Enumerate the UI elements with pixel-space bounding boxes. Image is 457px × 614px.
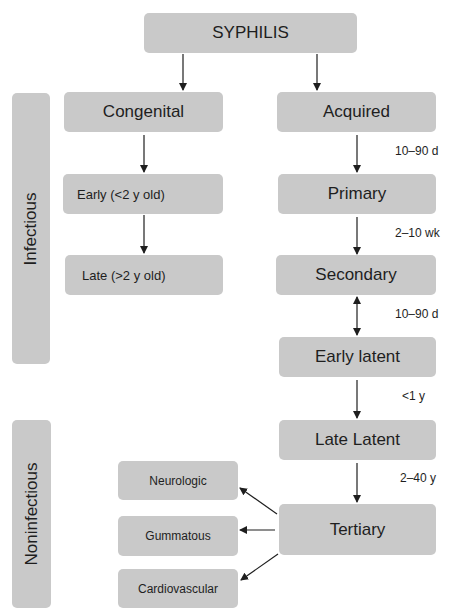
arrow-tertiary-to-cardiovascular bbox=[241, 554, 278, 580]
arrow-layer bbox=[0, 0, 457, 614]
arrow-tertiary-to-neurologic bbox=[240, 488, 277, 514]
